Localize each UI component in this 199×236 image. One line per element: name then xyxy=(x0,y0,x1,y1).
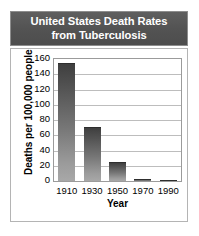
y-axis-tick-labels: 160140120100806040200 xyxy=(25,53,50,183)
bar xyxy=(134,179,151,181)
bar xyxy=(58,63,75,181)
x-axis-tick-labels: 19101930195019701990 xyxy=(53,185,182,199)
y-axis-tick-label: 60 xyxy=(25,129,50,139)
y-axis-tick-label: 80 xyxy=(25,114,50,124)
bar-series xyxy=(54,59,181,181)
y-axis-tick-label: 0 xyxy=(25,175,50,185)
y-axis-tick-label: 40 xyxy=(25,145,50,155)
chart-title-banner: United States Death Rates from Tuberculo… xyxy=(10,11,188,46)
y-axis-tick-label: 160 xyxy=(25,53,50,63)
y-axis-tick-label: 100 xyxy=(25,99,50,109)
bar xyxy=(160,180,177,181)
bar xyxy=(109,162,126,181)
x-axis-tick-label: 1990 xyxy=(156,185,181,196)
bar xyxy=(84,127,101,181)
x-axis-tick-label: 1930 xyxy=(79,185,104,196)
y-axis-tick-label: 120 xyxy=(25,84,50,94)
x-axis-label: Year xyxy=(53,198,182,209)
chart-title-line-1: United States Death Rates xyxy=(31,15,168,29)
chart-figure: United States Death Rates from Tuberculo… xyxy=(0,0,199,236)
x-axis-tick-label: 1970 xyxy=(130,185,155,196)
y-axis-tick-label: 140 xyxy=(25,68,50,78)
plot-area xyxy=(53,58,182,182)
x-axis-tick-label: 1950 xyxy=(105,185,130,196)
chart-frame: Deaths per 100,000 people 16014012010080… xyxy=(10,48,188,222)
chart-title-line-2: from Tuberculosis xyxy=(51,29,146,43)
y-axis-tick-label: 20 xyxy=(25,160,50,170)
x-axis-tick-label: 1910 xyxy=(54,185,79,196)
